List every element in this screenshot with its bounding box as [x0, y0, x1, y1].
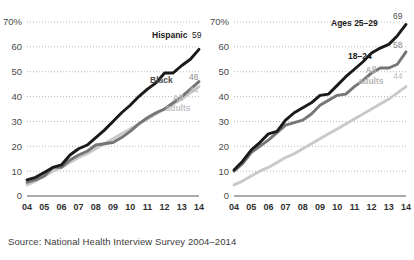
x-axis-tick: 04 [22, 202, 32, 212]
hispanic-value: 59 [192, 30, 202, 40]
y-axis-tick: 50 [11, 66, 22, 77]
left-chart-svg: 70%60504030201000405060708091011121314Hi… [0, 0, 207, 232]
series-line [234, 52, 406, 171]
hispanic-label: Hispanic [152, 30, 188, 40]
x-axis-tick: 05 [246, 202, 256, 212]
x-axis-tick: 07 [281, 202, 291, 212]
x-axis-tick: 14 [401, 202, 411, 212]
ages-25-29-value: 69 [393, 11, 403, 21]
black-value: 46 [189, 72, 199, 82]
x-axis-tick: 08 [91, 202, 101, 212]
ages-18-24-value: 58 [393, 40, 403, 50]
source-note: Source: National Health Interview Survey… [8, 236, 236, 247]
y-axis-tick: 20 [11, 141, 22, 152]
y-axis-tick: 0 [224, 190, 229, 201]
ages-25-29-label: Ages 25–29 [331, 18, 378, 28]
x-axis-tick: 09 [108, 202, 118, 212]
x-axis-tick: 06 [263, 202, 273, 212]
y-axis-tick: 20 [218, 141, 229, 152]
chart-panels: 70%60504030201000405060708091011121314Hi… [0, 0, 414, 232]
y-axis-tick: 30 [11, 116, 22, 127]
x-axis-tick: 13 [384, 202, 394, 212]
y-axis-tick: 60 [11, 41, 22, 52]
panel-left: 70%60504030201000405060708091011121314Hi… [0, 0, 207, 232]
all-adults-value: 44 [189, 85, 199, 95]
ages-18-24-label: 18–24 [348, 51, 372, 61]
x-axis-tick: 11 [143, 202, 153, 212]
x-axis-tick: 05 [39, 202, 49, 212]
series-line [27, 49, 199, 180]
y-axis-tick: 70% [210, 16, 230, 27]
all-adults-label-1: All [173, 93, 184, 103]
y-axis-tick: 70% [3, 16, 23, 27]
y-axis-tick: 60 [218, 41, 229, 52]
x-axis-tick: 10 [125, 202, 135, 212]
x-axis-tick: 04 [229, 202, 239, 212]
all-adults-label-right-1: All [366, 65, 377, 75]
figure-container: 70%60504030201000405060708091011121314Hi… [0, 0, 414, 260]
x-axis-tick: 07 [74, 202, 84, 212]
all-adults-value-right: 44 [393, 71, 403, 81]
x-axis-tick: 06 [56, 202, 66, 212]
panel-right: 70%60504030201000405060708091011121314Ag… [207, 0, 414, 232]
black-label: Black [150, 75, 173, 85]
y-axis-tick: 10 [218, 166, 229, 177]
x-axis-tick: 10 [332, 202, 342, 212]
x-axis-tick: 13 [177, 202, 187, 212]
all-adults-label-2: adults [165, 103, 190, 113]
x-axis-tick: 11 [350, 202, 360, 212]
x-axis-tick: 14 [194, 202, 204, 212]
y-axis-tick: 30 [218, 116, 229, 127]
y-axis-tick: 40 [11, 91, 22, 102]
x-axis-tick: 12 [367, 202, 377, 212]
y-axis-tick: 50 [218, 66, 229, 77]
x-axis-tick: 12 [160, 202, 170, 212]
series-line [234, 24, 406, 169]
series-line [234, 87, 406, 185]
x-axis-tick: 08 [298, 202, 308, 212]
all-adults-label-right-2: adults [358, 76, 383, 86]
y-axis-tick: 40 [218, 91, 229, 102]
y-axis-tick: 10 [11, 166, 22, 177]
x-axis-tick: 09 [315, 202, 325, 212]
y-axis-tick: 0 [17, 190, 22, 201]
right-chart-svg: 70%60504030201000405060708091011121314Ag… [207, 0, 414, 232]
